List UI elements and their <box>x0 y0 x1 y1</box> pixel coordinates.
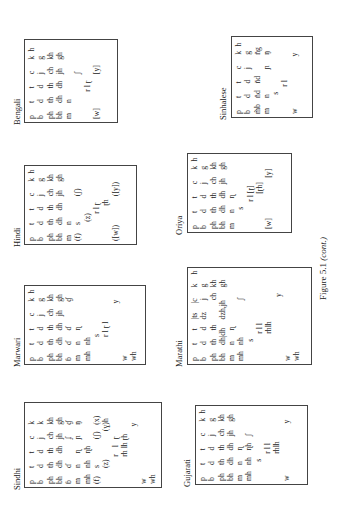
phoneme: th <box>46 205 55 211</box>
phoneme-row: r l ɽ <box>92 169 101 241</box>
phoneme: gh <box>55 417 64 425</box>
phoneme-row: phththchkh <box>209 157 218 229</box>
phoneme: p <box>234 110 243 114</box>
phoneme-row: mnɳ <box>235 409 244 481</box>
phoneme-row: rh lh ɽh <box>120 406 129 484</box>
phoneme: m <box>227 355 236 361</box>
phoneme: th <box>46 219 55 225</box>
phoneme: th <box>46 97 55 103</box>
phoneme: h <box>27 290 36 294</box>
phoneme: t <box>27 328 36 330</box>
phoneme: nh <box>83 337 92 345</box>
phoneme: j <box>36 194 45 196</box>
phoneme: ch <box>217 429 226 436</box>
phoneme: p <box>27 357 36 361</box>
phoneme: ɗ <box>64 464 73 468</box>
phoneme: g <box>199 284 208 288</box>
phoneme: bh <box>226 473 235 481</box>
phoneme: h <box>27 48 36 52</box>
phoneme: gh <box>55 174 64 182</box>
phoneme-row: (z) <box>83 169 92 241</box>
phoneme: bh <box>55 476 64 484</box>
phoneme: wh <box>292 351 301 361</box>
phoneme: ɳ <box>227 327 236 331</box>
phoneme: g <box>243 51 252 55</box>
phoneme: k <box>198 418 207 422</box>
phoneme: th <box>46 325 55 331</box>
panel-title: Gujarati <box>182 459 192 487</box>
phoneme: nh <box>83 460 92 468</box>
phoneme: c <box>27 193 36 196</box>
phoneme: y <box>282 420 291 424</box>
phoneme: n <box>262 94 271 98</box>
phoneme-row: rhlh <box>264 271 273 361</box>
phoneme: dh <box>218 191 227 199</box>
phoneme: m <box>235 475 244 481</box>
phoneme-row: mnɲŋ <box>262 40 271 114</box>
phoneme: dz <box>199 312 208 319</box>
phoneme: t <box>27 208 36 210</box>
phoneme: ph <box>46 476 55 484</box>
phoneme: dzh,jh <box>218 300 227 319</box>
phoneme: p <box>27 237 36 241</box>
phoneme: ʄ <box>64 437 73 440</box>
phoneme: t <box>234 96 243 98</box>
phoneme: p <box>190 225 199 229</box>
phoneme: ph <box>46 233 55 241</box>
phoneme-row: bddjg <box>243 40 252 114</box>
phoneme: h <box>27 170 36 174</box>
phoneme-row: r l [ɽ] <box>246 157 255 229</box>
phoneme: th <box>46 339 55 345</box>
phoneme-row: bddjg <box>199 157 208 229</box>
phoneme-row: s <box>92 289 101 361</box>
phoneme: n <box>73 341 82 345</box>
phoneme: ch <box>46 432 55 439</box>
phoneme: bh <box>218 221 227 229</box>
phoneme: r l ɽ <box>92 203 101 214</box>
phoneme: j <box>207 434 216 436</box>
phoneme: ɽh <box>101 199 110 206</box>
phoneme: n <box>64 221 73 225</box>
phoneme: th <box>209 339 218 345</box>
phoneme: t <box>27 451 36 453</box>
phoneme: t <box>27 101 36 103</box>
phoneme: b <box>199 225 208 229</box>
phoneme-row: s <box>271 40 280 114</box>
phoneme: [w] <box>92 108 101 119</box>
caption-label: Figure 5.1 <box>318 263 328 300</box>
phoneme-row: r l l <box>263 409 272 481</box>
phoneme: j <box>199 182 208 184</box>
phoneme: kh <box>217 414 226 422</box>
phoneme: b <box>199 357 208 361</box>
rotated-page: Sindhi pttckbddjkphththchkhbhdhdhjhghɓɗʄ… <box>0 0 338 518</box>
phoneme: k <box>36 421 45 425</box>
phoneme: n̆d <box>253 90 262 98</box>
phoneme: j <box>36 72 45 74</box>
phoneme-row: phththchkh <box>46 43 55 119</box>
phoneme: p <box>27 480 36 484</box>
phoneme-box: pttckbddjgphththchkhbhdhdhjhghmnɳsr l [ɽ… <box>187 153 292 233</box>
phoneme: k <box>27 298 36 302</box>
phoneme: b <box>36 115 45 119</box>
phoneme: h <box>190 271 199 275</box>
phoneme: jh <box>55 190 64 196</box>
phoneme-row: phththchkh <box>46 406 55 484</box>
phoneme: mh <box>83 474 92 484</box>
phoneme: [ɽh] <box>255 182 264 194</box>
phoneme: m <box>73 355 82 361</box>
phoneme: ɳ <box>227 195 236 199</box>
phoneme: m <box>262 108 271 114</box>
phoneme-row: pttck <box>234 40 243 114</box>
phoneme-row: w <box>120 289 129 361</box>
phoneme: n̆g <box>253 47 262 55</box>
phoneme-row: bddjg <box>36 169 45 241</box>
phoneme-row: mn <box>64 43 73 119</box>
phoneme: dh <box>55 217 64 225</box>
phoneme: nh <box>244 457 253 465</box>
phoneme: (ʃ) <box>92 431 101 439</box>
phoneme: s <box>73 222 82 225</box>
phoneme: k <box>27 178 36 182</box>
phoneme: d <box>243 80 252 84</box>
phoneme: k <box>27 421 36 425</box>
phoneme: b <box>36 237 45 241</box>
